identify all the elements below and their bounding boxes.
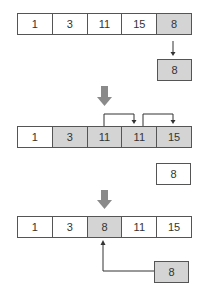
array-cell: 15 xyxy=(157,127,191,147)
big-down-arrow-icon xyxy=(97,190,112,209)
array-cell: 3 xyxy=(53,14,88,34)
array-step3: 1 3 8 11 15 xyxy=(17,216,192,238)
shift-arrow-icon xyxy=(104,114,137,126)
array-step1: 1 3 11 15 8 xyxy=(17,13,192,35)
array-cell: 11 xyxy=(122,217,157,237)
array-cell: 11 xyxy=(88,14,123,34)
array-cell: 15 xyxy=(157,217,191,237)
insert-arrow-icon xyxy=(101,240,155,271)
array-cell: 11 xyxy=(122,127,157,147)
arrows-layer xyxy=(0,0,203,300)
array-cell: 3 xyxy=(53,127,88,147)
array-cell: 1 xyxy=(18,217,53,237)
array-cell-inserted: 8 xyxy=(88,217,123,237)
array-cell: 1 xyxy=(18,127,53,147)
shift-arrow-icon xyxy=(143,114,176,126)
temp-box-step3: 8 xyxy=(154,261,189,283)
big-down-arrow-icon xyxy=(97,86,112,106)
array-cell: 3 xyxy=(53,217,88,237)
array-step2: 1 3 11 11 15 xyxy=(17,126,192,148)
down-arrow-icon xyxy=(171,41,176,56)
array-cell: 11 xyxy=(88,127,123,147)
temp-box-step2: 8 xyxy=(156,163,191,185)
temp-box-step1: 8 xyxy=(157,59,192,81)
array-cell: 1 xyxy=(18,14,53,34)
array-cell-key: 8 xyxy=(157,14,191,34)
array-cell: 15 xyxy=(122,14,157,34)
